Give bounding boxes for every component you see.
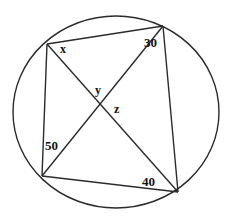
angle-label-40: 40: [142, 175, 155, 188]
chord-bottom: [42, 176, 178, 192]
geometry-figure: x 30 y z 50 40: [0, 0, 239, 222]
angle-label-50: 50: [45, 139, 58, 152]
angle-label-y: y: [95, 84, 101, 96]
chord-left: [42, 44, 47, 176]
diagonal-a-c: [47, 44, 178, 192]
angle-label-z: z: [114, 103, 119, 115]
angle-label-x: x: [60, 43, 66, 55]
geometry-canvas: [0, 0, 239, 222]
angle-label-30: 30: [144, 36, 157, 49]
chord-right: [163, 26, 178, 192]
